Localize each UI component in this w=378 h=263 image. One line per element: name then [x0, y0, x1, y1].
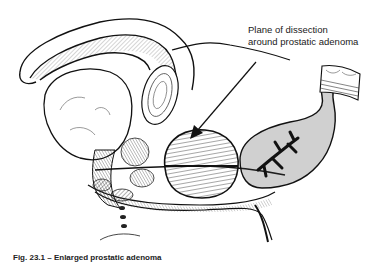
prostatic-adenoma — [165, 130, 239, 198]
bulbospongiosus — [119, 206, 127, 228]
annotation-label: Plane of dissection around prostatic ade… — [248, 24, 358, 48]
bladder-lumen — [44, 69, 132, 160]
seminal-vesicle — [136, 62, 184, 129]
figure-caption: Fig. 23.1 – Enlarged prostatic adenoma — [13, 253, 162, 263]
annotation-line-1: Plane of dissection — [248, 24, 358, 36]
rectum — [240, 78, 338, 188]
arrow-down-left-icon — [190, 62, 256, 139]
skin-contour — [100, 234, 140, 240]
annotation-line-2: around prostatic adenoma — [248, 36, 358, 48]
